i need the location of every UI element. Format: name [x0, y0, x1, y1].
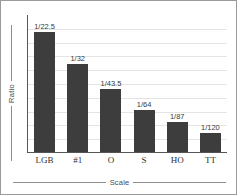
y-axis-label-rule-bottom [11, 106, 12, 162]
bar-value-label: 1/22.5 [34, 22, 55, 31]
bar-column[interactable]: 1/87 [167, 15, 188, 152]
x-axis-label-rule-right [133, 182, 226, 183]
bar-value-label: 1/87 [170, 112, 185, 121]
bar[interactable] [200, 133, 221, 152]
bar[interactable] [167, 122, 188, 152]
bar[interactable] [134, 110, 155, 152]
bar-column[interactable]: 1/22.5 [34, 15, 55, 152]
x-axis-label-group: Scale [13, 176, 226, 188]
bar-chart-figure: Ratio 1/22.51/321/43.51/641/871/120 LGB#… [0, 0, 237, 195]
bar-value-label: 1/120 [201, 123, 220, 132]
x-axis-label-rule-left [13, 182, 106, 183]
bar-column[interactable]: 1/32 [67, 15, 88, 152]
y-axis-label: Ratio [7, 81, 16, 106]
bar[interactable] [67, 64, 88, 152]
x-axis-tick-labels: LGB#1OSHOTT [28, 155, 227, 169]
x-tick-label: HO [161, 155, 194, 165]
bar-value-label: 1/32 [70, 54, 85, 63]
x-axis-label: Scale [106, 178, 134, 187]
bar-column[interactable]: 1/120 [200, 15, 221, 152]
bar-column[interactable]: 1/43.5 [100, 15, 121, 152]
bar-value-label: 1/43.5 [100, 79, 121, 88]
plot-area: 1/22.51/321/43.51/641/871/120 [27, 15, 227, 153]
y-axis-label-group: Ratio [3, 25, 19, 161]
bar[interactable] [34, 32, 55, 152]
x-tick-label: LGB [28, 155, 61, 165]
x-tick-label: TT [194, 155, 227, 165]
y-axis-label-rule-top [11, 25, 12, 81]
x-axis-line [27, 152, 227, 153]
bar[interactable] [100, 89, 121, 152]
bar-column[interactable]: 1/64 [134, 15, 155, 152]
x-tick-label: S [128, 155, 161, 165]
x-tick-label: #1 [61, 155, 94, 165]
x-tick-label: O [94, 155, 127, 165]
bar-value-label: 1/64 [137, 100, 152, 109]
bar-series: 1/22.51/321/43.51/641/871/120 [28, 15, 227, 152]
